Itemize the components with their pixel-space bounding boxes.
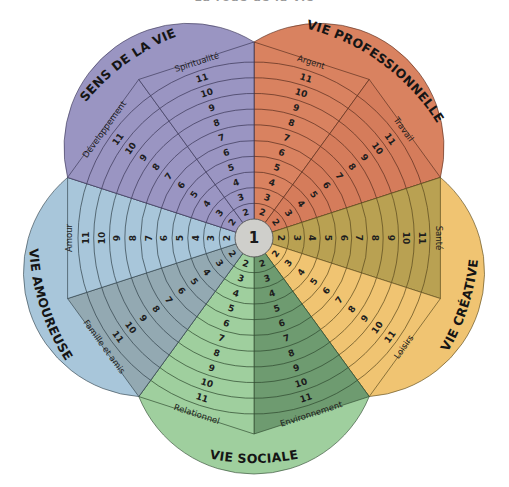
life-wheel-diagram: 234567891011Argent234567891011TravailVIE… [0, 0, 509, 487]
ring-number: 7 [354, 235, 364, 241]
hub-center[interactable]: 1 [235, 219, 273, 257]
ring-number: 10 [97, 232, 107, 245]
sector-label: Santé [434, 226, 444, 251]
ring-number: 5 [323, 235, 333, 241]
ring-number: 5 [175, 235, 185, 241]
ring-number: 11 [81, 232, 91, 245]
ring-number: 4 [191, 235, 201, 241]
ring-number: 9 [112, 235, 122, 241]
ring-number: 9 [386, 235, 396, 241]
ring-number: 11 [417, 232, 427, 245]
ring-number: 2 [222, 235, 232, 241]
ring-number: 8 [128, 235, 138, 241]
hub-label: 1 [249, 229, 259, 247]
sector-label: Amour [64, 223, 74, 252]
ring-number: 10 [401, 232, 411, 245]
ring-number: 8 [370, 235, 380, 241]
ring-number: 6 [159, 235, 169, 241]
ring-number: 2 [276, 235, 286, 241]
ring-number: 3 [292, 235, 302, 241]
ring-number: 7 [144, 235, 154, 241]
ring-number: 6 [339, 235, 349, 241]
ring-number: 4 [307, 235, 317, 241]
ring-number: 3 [206, 235, 216, 241]
